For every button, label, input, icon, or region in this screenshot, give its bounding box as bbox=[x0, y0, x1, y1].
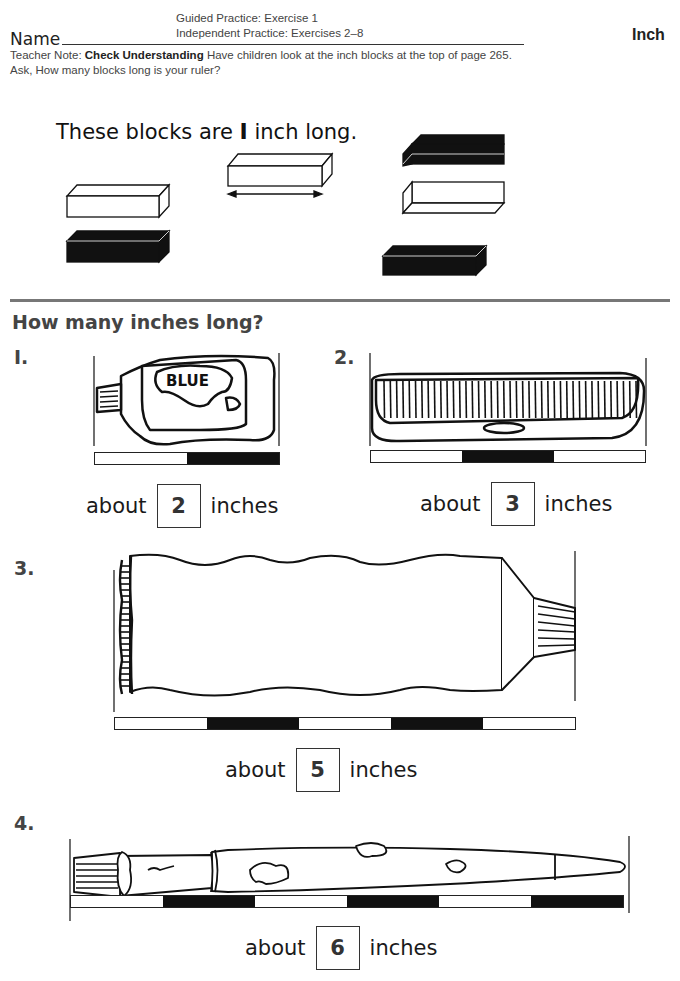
paintbrush-illustration bbox=[0, 0, 680, 981]
ruler-segment-white bbox=[71, 896, 163, 907]
ruler-segment-black bbox=[347, 896, 439, 907]
exercise-4-answer: about 6 inches bbox=[245, 926, 437, 970]
ruler-segment-white bbox=[439, 896, 531, 907]
ruler-segment-black bbox=[163, 896, 255, 907]
ruler-segment-white bbox=[255, 896, 347, 907]
about-label: about bbox=[245, 936, 306, 960]
answer-box[interactable]: 6 bbox=[316, 926, 360, 970]
exercise-4-ruler bbox=[70, 895, 624, 908]
ruler-segment-black bbox=[531, 896, 623, 907]
inches-label: inches bbox=[370, 936, 438, 960]
